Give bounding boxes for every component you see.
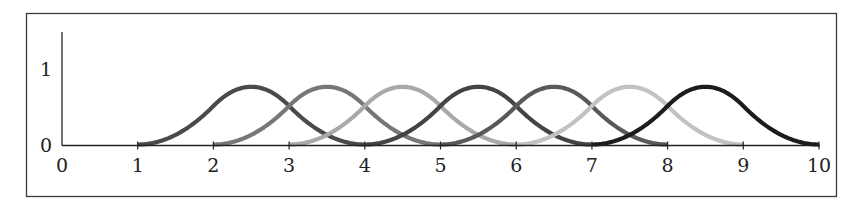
x-tick-label: 7 <box>586 154 598 176</box>
x-tick-label: 1 <box>132 154 144 176</box>
x-tick-label: 2 <box>207 154 219 176</box>
x-tick-label: 3 <box>283 154 295 176</box>
x-tick-label: 5 <box>434 154 446 176</box>
y-tick-label-0: 0 <box>40 134 52 156</box>
x-tick-labels: 012345678910 <box>56 154 831 176</box>
x-tick-label: 8 <box>662 154 674 176</box>
x-tick-label: 9 <box>737 154 749 176</box>
bspline-chart: 012345678910 1 0 <box>0 0 851 201</box>
curves-group <box>138 87 819 145</box>
x-tick-label: 6 <box>510 154 522 176</box>
x-tick-label: 4 <box>359 154 371 176</box>
chart-frame <box>27 14 837 197</box>
x-tick-label: 10 <box>807 154 831 176</box>
x-tick-label: 0 <box>56 154 68 176</box>
y-tick-label-1: 1 <box>40 58 52 80</box>
